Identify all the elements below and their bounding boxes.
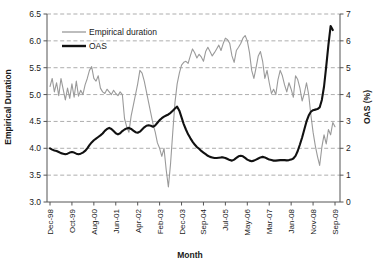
legend-label-empirical-duration: Empirical duration [89,27,157,37]
x-axis-tick-label: Aug-00 [90,208,99,234]
right-axis-tick-label: 3 [346,116,351,126]
right-axis-tick-label: 6 [346,36,351,46]
x-axis-tick-label: Jul-05 [221,208,230,230]
x-axis-tick-label: Apr-02 [134,208,143,233]
line-chart: 3.03.54.04.55.05.56.06.5 01234567 Dec-98… [0,0,378,267]
y-axis-title-left: Empirical Duration [3,69,13,145]
x-axis-tick-label: Mar-07 [265,208,274,234]
left-axis-tick-label: 6.5 [29,9,41,19]
x-axis-tick-label: Sep-04 [199,208,208,234]
right-axis-tick-label: 4 [346,90,351,100]
left-axis-tick-label: 6.0 [29,36,41,46]
x-axis-tick-label: Oct-99 [68,208,77,233]
x-axis-tick-label: Feb-03 [156,208,165,234]
right-axis-tick-label: 7 [346,9,351,19]
x-axis-tick-label: Dec-98 [46,208,55,234]
left-axis-tick-label: 3.5 [29,170,41,180]
chart-background [0,0,378,267]
x-axis-tick-label: May-06 [243,208,252,235]
left-axis-tick-label: 4.0 [29,143,41,153]
left-axis-tick-label: 5.0 [29,90,41,100]
left-axis-tick-label: 3.0 [29,197,41,207]
y-axis-title-right: OAS (%) [362,90,372,124]
left-axis-tick-label: 4.5 [29,116,41,126]
x-axis-tick-label: Sep-09 [331,208,340,234]
x-axis-tick-label: Jan-08 [287,208,296,233]
right-axis-tick-label: 0 [346,197,351,207]
left-axis-tick-label: 5.5 [29,63,41,73]
x-axis-title: Month [177,250,203,260]
right-axis-tick-label: 5 [346,63,351,73]
x-axis-tick-label: Jun-01 [112,208,121,233]
right-axis-tick-label: 1 [346,170,351,180]
legend-label-oas: OAS [89,41,107,51]
chart-container: 3.03.54.04.55.05.56.06.5 01234567 Dec-98… [0,0,378,267]
right-axis-tick-label: 2 [346,143,351,153]
x-axis-tick-label: Dec-03 [178,208,187,234]
x-axis-tick-label: Nov-08 [309,208,318,234]
